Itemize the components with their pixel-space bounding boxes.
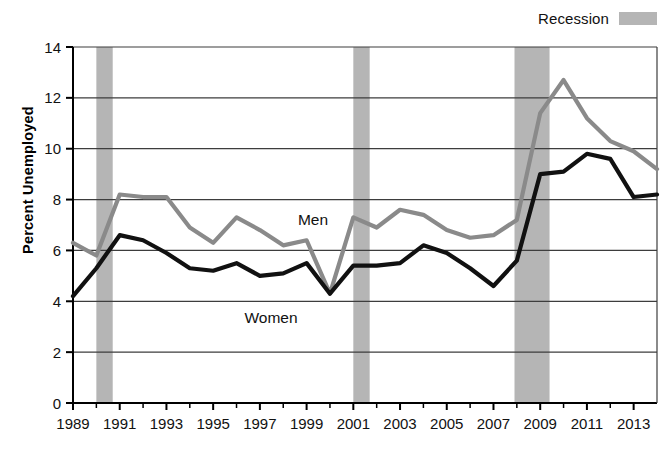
- y-tick-label: 12: [44, 89, 61, 106]
- y-tick-label: 0: [53, 395, 61, 412]
- y-tick-label: 10: [44, 140, 61, 157]
- x-tick-label: 1997: [243, 415, 276, 432]
- y-tick-label: 4: [53, 293, 61, 310]
- x-tick-label: 1993: [150, 415, 183, 432]
- y-tick-label: 6: [53, 242, 61, 259]
- x-tick-label: 1995: [196, 415, 229, 432]
- y-tick-label: 2: [53, 344, 61, 361]
- plot-area: 0246810121419891991199319951997199920012…: [0, 0, 671, 450]
- x-tick-label: 1999: [290, 415, 323, 432]
- x-tick-label: 2003: [383, 415, 416, 432]
- series-label-women: Women: [244, 309, 297, 326]
- x-tick-label: 1989: [56, 415, 89, 432]
- x-tick-label: 1991: [103, 415, 136, 432]
- x-tick-label: 2007: [477, 415, 510, 432]
- x-tick-label: 2001: [337, 415, 370, 432]
- x-tick-label: 2009: [524, 415, 557, 432]
- recession-band: [515, 47, 550, 403]
- series-label-men: Men: [298, 211, 328, 228]
- y-tick-label: 8: [53, 191, 61, 208]
- x-tick-label: 2011: [571, 415, 603, 432]
- x-tick-label: 2013: [617, 415, 650, 432]
- y-tick-label: 14: [44, 39, 61, 56]
- unemployment-chart: Recession Percent Unemployed 02468101214…: [0, 0, 671, 450]
- x-tick-label: 2005: [430, 415, 463, 432]
